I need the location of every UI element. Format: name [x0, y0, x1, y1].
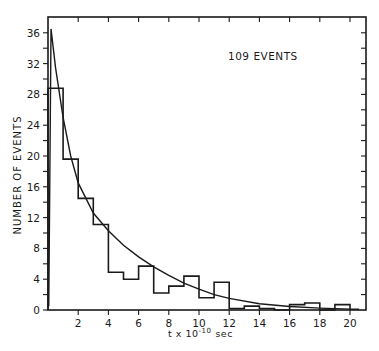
tick-label: 20 — [343, 317, 356, 329]
tick-label: 4 — [105, 317, 112, 329]
tick-label: 6 — [135, 317, 142, 329]
histogram-bars — [48, 88, 350, 310]
axis-ticks — [43, 17, 366, 315]
x-axis-label-exponent: -10 — [198, 327, 211, 335]
tick-label: 12 — [27, 212, 40, 224]
y-axis-label: NUMBER OF EVENTS — [12, 116, 23, 235]
tick-label: 4 — [33, 273, 40, 285]
tick-label: 20 — [27, 150, 40, 162]
tick-label: 32 — [27, 58, 40, 70]
tick-label: 8 — [33, 242, 40, 254]
tick-label: 36 — [27, 27, 41, 39]
tick-label: 14 — [253, 317, 267, 329]
tick-label: 2 — [75, 317, 82, 329]
tick-label: 16 — [27, 181, 41, 193]
x-axis-label-unit: sec — [215, 328, 233, 339]
tick-label: 0 — [33, 304, 40, 316]
x-axis-label: t x 10-10sec — [168, 327, 233, 339]
x-axis-label-base: t x 10 — [168, 328, 198, 339]
tick-label: 24 — [27, 119, 41, 131]
histogram-chart: 246810121416182004812162024283236 109 EV… — [0, 0, 379, 351]
tick-label: 28 — [27, 88, 40, 100]
tick-label: 18 — [313, 317, 326, 329]
tick-label: 16 — [283, 317, 297, 329]
plot-frame — [48, 17, 366, 310]
fit-curve — [49, 29, 359, 309]
events-annotation: 109 EVENTS — [228, 50, 298, 62]
